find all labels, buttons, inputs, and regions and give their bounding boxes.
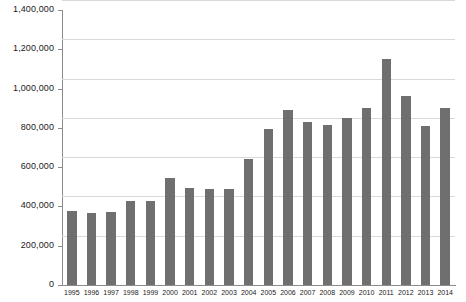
x-axis-tick-label: 1999 — [141, 288, 161, 298]
x-axis-tick-label: 2010 — [357, 288, 377, 298]
x-axis-tick-label: 1995 — [62, 288, 82, 298]
gridline — [62, 0, 455, 1]
x-axis-tick-label: 2014 — [435, 288, 455, 298]
x-axis-tick-label: 2007 — [298, 288, 318, 298]
x-axis-tick-label: 2002 — [200, 288, 220, 298]
bar-slot — [259, 10, 279, 285]
x-axis-tick-label: 2004 — [239, 288, 259, 298]
x-axis-tick-label: 2012 — [396, 288, 416, 298]
bar-slot — [357, 10, 377, 285]
bars-group — [62, 10, 455, 285]
y-axis-tick-label: 400,000 — [0, 201, 54, 210]
y-axis-tick-label: 200,000 — [0, 241, 54, 250]
y-axis-tick-label: 800,000 — [0, 123, 54, 132]
x-axis-tick-label: 2000 — [160, 288, 180, 298]
bar-slot — [396, 10, 416, 285]
y-axis-tick-label: 0 — [0, 280, 54, 289]
bar[interactable] — [283, 110, 292, 285]
bar-slot — [180, 10, 200, 285]
bar-slot — [317, 10, 337, 285]
x-axis-tick-label: 2013 — [416, 288, 436, 298]
bar-slot — [200, 10, 220, 285]
bar-chart: 1,400,0001,200,0001,000,000800,000600,00… — [0, 0, 466, 302]
x-axis-tick-label: 2008 — [317, 288, 337, 298]
bar[interactable] — [362, 108, 371, 285]
bar-slot — [416, 10, 436, 285]
bar[interactable] — [67, 211, 76, 285]
bar-slot — [101, 10, 121, 285]
bar-slot — [239, 10, 259, 285]
y-axis-tick-label: 1,200,000 — [0, 44, 54, 53]
bar[interactable] — [323, 125, 332, 285]
x-axis-tick-label: 2006 — [278, 288, 298, 298]
x-axis-tick-label: 2009 — [337, 288, 357, 298]
x-axis-tick-label: 2005 — [259, 288, 279, 298]
bar[interactable] — [303, 122, 312, 285]
bar[interactable] — [244, 159, 253, 285]
y-axis-tick-label: 1,400,000 — [0, 5, 54, 14]
bar[interactable] — [264, 129, 273, 285]
bar-slot — [219, 10, 239, 285]
x-axis-tick-label: 2011 — [376, 288, 396, 298]
bar[interactable] — [440, 108, 449, 285]
bar[interactable] — [146, 201, 155, 285]
y-axis-tick — [58, 285, 62, 286]
bar[interactable] — [401, 96, 410, 285]
bar[interactable] — [421, 126, 430, 285]
bar-slot — [298, 10, 318, 285]
bar[interactable] — [224, 189, 233, 285]
bar-slot — [82, 10, 102, 285]
bar[interactable] — [87, 213, 96, 285]
x-axis-tick-label: 1998 — [121, 288, 141, 298]
bar-slot — [121, 10, 141, 285]
bar[interactable] — [342, 118, 351, 285]
x-axis-tick-label: 1996 — [82, 288, 102, 298]
bar-slot — [141, 10, 161, 285]
bar[interactable] — [185, 188, 194, 285]
bar-slot — [62, 10, 82, 285]
y-axis-tick-label: 1,000,000 — [0, 84, 54, 93]
bar[interactable] — [106, 212, 115, 285]
bar-slot — [376, 10, 396, 285]
bar[interactable] — [126, 201, 135, 285]
bar-slot — [435, 10, 455, 285]
bar[interactable] — [382, 59, 391, 285]
y-axis-tick-label: 600,000 — [0, 162, 54, 171]
x-axis-tick-label: 1997 — [101, 288, 121, 298]
x-axis-tick-label: 2001 — [180, 288, 200, 298]
x-axis-tick-label: 2003 — [219, 288, 239, 298]
bar[interactable] — [165, 178, 174, 285]
x-axis-line — [62, 285, 456, 286]
bar[interactable] — [205, 189, 214, 285]
bar-slot — [337, 10, 357, 285]
bar-slot — [278, 10, 298, 285]
bar-slot — [160, 10, 180, 285]
x-axis-labels-group: 1995199619971998199920002001200220032004… — [62, 288, 455, 302]
